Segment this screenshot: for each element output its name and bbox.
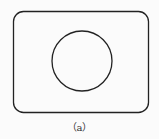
outer-rounded-rectangle <box>14 12 149 113</box>
inner-circle <box>52 31 112 91</box>
figure-caption: （a） <box>0 119 159 134</box>
